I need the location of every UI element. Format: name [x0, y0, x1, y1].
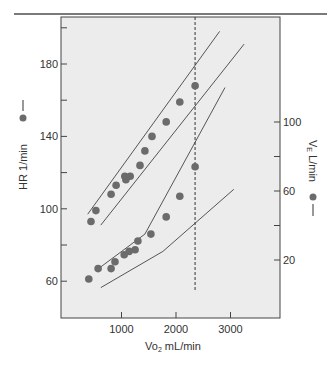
hr-data-point [141, 147, 149, 155]
left-axis-title: HR 1/min [17, 144, 29, 190]
hr-data-point [191, 82, 199, 90]
ve-data-point [85, 275, 93, 283]
ve-legend-marker-icon [310, 194, 317, 201]
ve-data-point [107, 265, 115, 273]
hr-data-point [148, 133, 156, 141]
ve-data-point [94, 265, 102, 273]
y-left-tick-label: 100 [40, 203, 58, 215]
x-tick-label: 2000 [164, 323, 188, 335]
ve-data-point [134, 237, 142, 245]
ve-data-point [131, 246, 139, 254]
y-left-tick-label: 180 [40, 58, 58, 70]
hr-data-point [107, 191, 115, 199]
hr-data-point [162, 118, 170, 126]
x-axis-label-main: Vo [145, 340, 158, 352]
x-tick-label: 1000 [109, 323, 133, 335]
hr-data-point [87, 218, 95, 226]
hr-data-point [112, 182, 120, 190]
hr-data-point [126, 172, 134, 180]
hr-data-point [176, 98, 184, 106]
hr-ve-vo2-chart: 100020003000601001401802060100 HR 1/min … [0, 0, 327, 367]
y-left-tick-label: 140 [40, 130, 58, 142]
x-axis-label-unit: mL/min [162, 340, 201, 352]
y-right-tick-label: 60 [283, 185, 295, 197]
hr-data-point [92, 207, 100, 215]
x-tick-label: 3000 [218, 323, 242, 335]
y-right-tick-label: 100 [283, 116, 301, 128]
ve-data-point [147, 230, 155, 238]
ve-data-point [111, 258, 119, 266]
x-axis-title: Vo2 mL/min [145, 340, 201, 353]
plot-area [61, 17, 280, 318]
hr-legend-marker-icon [20, 115, 27, 122]
ve-data-point [162, 213, 170, 221]
svg-text:HR 1/min: HR 1/min [17, 144, 29, 190]
ve-data-point [176, 192, 184, 200]
left-axis-label: HR 1/min [17, 144, 29, 190]
svg-text:VE L/min: VE L/min [306, 140, 319, 182]
right-axis-label-unit: L/min [307, 152, 319, 182]
y-left-tick-label: 60 [46, 275, 58, 287]
ve-data-point [191, 163, 199, 171]
right-axis-title: VE L/min [306, 140, 319, 182]
hr-data-point [136, 162, 144, 170]
y-right-tick-label: 20 [283, 254, 295, 266]
